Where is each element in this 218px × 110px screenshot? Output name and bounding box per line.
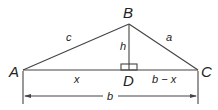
side-c: [23, 24, 129, 70]
segment-b-minus-x-label: b − x: [152, 73, 177, 85]
arrow-right-icon: [190, 94, 197, 98]
side-a: [129, 24, 198, 70]
side-c-label: c: [66, 31, 72, 43]
vertex-c-label: C: [201, 63, 212, 80]
vertex-b-label: B: [123, 4, 133, 21]
side-a-label: a: [166, 31, 172, 43]
vertex-d-label: D: [123, 72, 134, 89]
vertex-a-label: A: [8, 63, 19, 80]
altitude-h-label: h: [120, 40, 126, 52]
segment-x-label: x: [73, 73, 80, 85]
arrow-left-icon: [24, 94, 31, 98]
triangle-diagram: A B C D c a h x b − x b: [0, 0, 218, 110]
base-b-label: b: [107, 90, 113, 102]
